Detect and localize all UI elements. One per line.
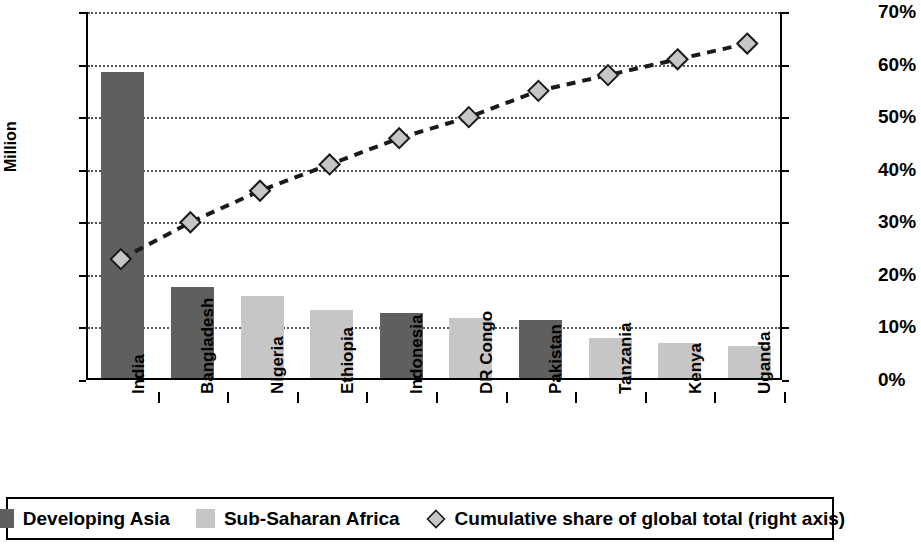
gridline (88, 222, 780, 224)
y-axis-tick-left (79, 222, 86, 224)
y-axis-tick-right (782, 117, 789, 119)
chart-area: Million 0501001502002503003500%10%20%30%… (0, 0, 840, 492)
legend-label-cumulative-share: Cumulative share of global total (right … (455, 508, 846, 530)
x-axis-tick (645, 392, 647, 403)
y-axis-tick-label-right: 0% (878, 370, 921, 389)
x-axis-category-label: Uganda (755, 332, 775, 394)
y-axis-tick-label-right: 20% (878, 265, 921, 284)
y-axis-tick-right (782, 275, 789, 277)
y-axis-tick-right (782, 222, 789, 224)
y-axis-tick-right (782, 12, 789, 14)
x-axis-category-label: Kenya (686, 343, 706, 394)
legend-item-cumulative-share: Cumulative share of global total (right … (426, 508, 846, 530)
x-axis-category-label: Pakistan (546, 324, 566, 394)
y-axis-tick-left (79, 327, 86, 329)
y-axis-tick-label-right: 30% (878, 212, 921, 231)
gridline (88, 117, 780, 119)
x-axis-category-label: Nigeria (268, 336, 288, 394)
y-axis-tick-label-right: 10% (878, 317, 921, 336)
y-axis-tick-label-right: 50% (878, 107, 921, 126)
x-axis-tick (158, 392, 160, 403)
x-axis-tick (227, 392, 229, 403)
gridline (88, 275, 780, 277)
y-axis-tick-left (79, 117, 86, 119)
y-axis-tick-right (782, 380, 789, 382)
gridline (88, 12, 780, 14)
x-axis-tick (506, 392, 508, 403)
x-axis-category-label: Tanzania (616, 323, 636, 394)
bar (101, 72, 144, 378)
x-axis-tick (784, 392, 786, 403)
y-axis-tick-label-right: 70% (878, 2, 921, 21)
x-axis-tick (714, 392, 716, 403)
y-axis-title: Million (2, 121, 20, 172)
y-axis-tick-right (782, 65, 789, 67)
x-axis-tick (436, 392, 438, 403)
y-axis-tick-left (79, 380, 86, 382)
y-axis-tick-label-right: 40% (878, 160, 921, 179)
diamond-marker-icon (426, 509, 446, 529)
y-axis-tick-left (79, 275, 86, 277)
gridline (88, 170, 780, 172)
legend-label-developing-asia: Developing Asia (23, 508, 170, 530)
legend-swatch-icon-developing-asia (0, 509, 14, 528)
x-axis-category-label: India (129, 354, 149, 394)
y-axis-tick-left (79, 65, 86, 67)
legend-swatch-icon-sub-saharan-africa (196, 509, 215, 528)
y-axis-tick-left (79, 170, 86, 172)
x-axis-tick (366, 392, 368, 403)
y-axis-tick-left (79, 12, 86, 14)
y-axis-tick-label-right: 60% (878, 55, 921, 74)
x-axis-category-label: DR Congo (477, 311, 497, 394)
x-axis-tick (575, 392, 577, 403)
chart-legend: Developing Asia Sub-Saharan Africa Cumul… (6, 497, 834, 540)
x-axis-category-label: Bangladesh (198, 298, 218, 394)
x-axis-tick (297, 392, 299, 403)
legend-item-developing-asia: Developing Asia (0, 508, 170, 530)
x-axis-category-label: Indonesia (407, 315, 427, 394)
legend-label-sub-saharan-africa: Sub-Saharan Africa (224, 508, 400, 530)
legend-item-sub-saharan-africa: Sub-Saharan Africa (196, 508, 400, 530)
y-axis-tick-right (782, 327, 789, 329)
gridline (88, 65, 780, 67)
plot-area: 0501001502002503003500%10%20%30%40%50%60… (86, 12, 782, 380)
y-axis-tick-right (782, 170, 789, 172)
x-axis-category-label: Ethiopia (338, 327, 358, 394)
